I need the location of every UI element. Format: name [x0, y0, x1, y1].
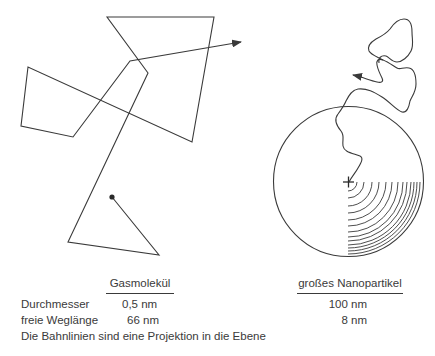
- gas-molecule-path: [21, 17, 241, 255]
- column-header-gas-molecule: Gasmolekül: [110, 277, 171, 290]
- footnote: Die Bahnlinien sind eine Projektion in d…: [21, 330, 266, 343]
- header-underline-gas: [106, 293, 174, 294]
- nanoparticle-figure: [274, 19, 424, 257]
- start-dot-icon: [109, 194, 114, 199]
- nano-diameter-value: 100 nm: [329, 298, 367, 311]
- gas-diameter-value: 0,5 nm: [122, 298, 157, 311]
- trajectory-figure: [0, 0, 435, 270]
- nanoparticle-path-upper-loop: [368, 19, 412, 63]
- header-underline-nanoparticle: [297, 293, 403, 294]
- concentric-arcs: [348, 182, 420, 254]
- nanoparticle-path: [336, 59, 416, 182]
- center-cross-icon: [343, 177, 354, 188]
- nano-free-path-value: 8 nm: [341, 314, 367, 327]
- row-label-free-path: freie Weglänge: [21, 314, 98, 327]
- column-header-nanoparticle: großes Nanopartikel: [298, 277, 402, 290]
- gas-free-path-value: 66 nm: [127, 314, 159, 327]
- row-label-diameter: Durchmesser: [21, 298, 89, 311]
